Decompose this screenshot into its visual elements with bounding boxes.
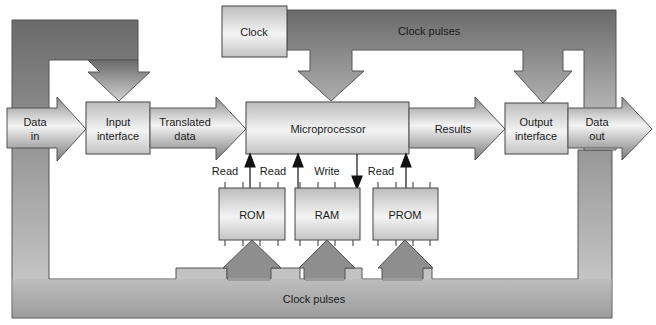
output-interface-label-line1: Output xyxy=(519,116,552,128)
results-label: Results xyxy=(435,123,472,135)
clock-block: Clock xyxy=(222,6,287,57)
translated-data-label-line1: Translated xyxy=(159,116,211,128)
data-in-label-line2: in xyxy=(31,130,40,142)
microprocessor-block: Microprocessor xyxy=(246,102,409,154)
input-interface-block: Input interface xyxy=(86,102,150,154)
output-interface-label-line2: interface xyxy=(515,130,557,142)
data-out-label-line1: Data xyxy=(585,116,609,128)
ram-write-arrow-icon xyxy=(352,176,362,189)
prom-label: PROM xyxy=(389,209,422,221)
clock-pulses-top-label: Clock pulses xyxy=(398,25,461,37)
rom-read-right-label: Read xyxy=(260,165,286,177)
ram-read-arrow-icon xyxy=(293,154,303,167)
output-interface-block: Output interface xyxy=(505,103,568,154)
data-in-label-line1: Data xyxy=(23,116,47,128)
rom-chip: ROM xyxy=(219,182,285,246)
microprocessor-label: Microprocessor xyxy=(290,123,366,135)
ram-label: RAM xyxy=(315,209,339,221)
ram-write-label: Write xyxy=(314,165,339,177)
rom-label: ROM xyxy=(239,209,265,221)
translated-data-arrow: Translated data xyxy=(150,97,246,160)
diagram-canvas: Clock pulses Clock Data in Input interfa… xyxy=(0,0,656,325)
prom-read-arrow-icon xyxy=(401,154,411,167)
clock-label: Clock xyxy=(240,26,268,38)
clock-arrows-memory xyxy=(223,240,433,279)
translated-data-label-line2: data xyxy=(174,130,196,142)
clock-pulses-bottom-label: Clock pulses xyxy=(283,293,346,305)
input-interface-label-line1: Input xyxy=(106,116,130,128)
ram-chip: RAM xyxy=(295,182,360,246)
prom-read-label: Read xyxy=(368,165,394,177)
rom-read-left-label: Read xyxy=(212,165,238,177)
input-interface-label-line2: interface xyxy=(97,130,139,142)
prom-chip: PROM xyxy=(373,182,438,246)
rom-read-arrow-icon xyxy=(245,154,255,167)
clock-arrow-input-interface xyxy=(88,60,150,101)
results-arrow: Results xyxy=(409,97,505,160)
data-out-label-line2: out xyxy=(589,130,604,142)
